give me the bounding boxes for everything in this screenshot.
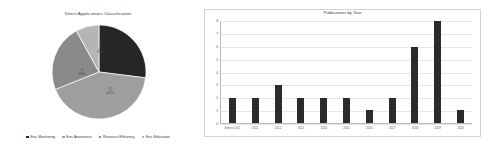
x-axis-tick-label: 2016 bbox=[358, 126, 381, 130]
bar bbox=[252, 98, 259, 124]
y-axis-tick-label: 0 bbox=[206, 122, 218, 126]
bar bbox=[275, 85, 282, 123]
y-axis-tick-label: 1 bbox=[206, 109, 218, 113]
x-axis-tick-label: 2019 bbox=[426, 126, 449, 130]
bar-column bbox=[449, 21, 472, 123]
pie-label-env-education: 2 8% bbox=[91, 46, 109, 55]
y-axis-tick-label: 5 bbox=[206, 58, 218, 62]
y-axis-tick-label: 8 bbox=[206, 19, 218, 23]
x-axis-tick-label: 2013 bbox=[289, 126, 312, 130]
figure-container: Direct Applications Classification 2 8% bbox=[0, 0, 489, 146]
bar-chart-x-tick-labels: before 201120112012201320142015201620172… bbox=[221, 126, 472, 130]
bar-column bbox=[404, 21, 427, 123]
pie-chart-legend: Env. Monitoring Env. Awareness Resource … bbox=[0, 135, 196, 139]
pie-label-resource-efficiency: 6 23% bbox=[73, 68, 91, 77]
x-axis-tick-label: 2015 bbox=[335, 126, 358, 130]
legend-item-env-awareness: Env. Awareness bbox=[62, 135, 92, 139]
legend-item-env-education: Env. Education bbox=[142, 135, 170, 139]
legend-item-resource-efficiency: Resource Efficiency bbox=[99, 135, 135, 139]
pie-svg bbox=[47, 24, 151, 120]
legend-swatch-icon bbox=[26, 136, 29, 139]
legend-swatch-icon bbox=[99, 136, 102, 139]
bar-chart-x-axis bbox=[220, 123, 472, 124]
bar-column bbox=[289, 21, 312, 123]
x-axis-tick-label: 2011 bbox=[244, 126, 267, 130]
bar-column bbox=[312, 21, 335, 123]
pie-label-percent: 8% bbox=[91, 50, 109, 54]
bar-column bbox=[426, 21, 449, 123]
x-axis-tick-label: 2020 bbox=[449, 126, 472, 130]
pie-chart-panel: Direct Applications Classification 2 8% bbox=[0, 0, 196, 146]
bar-chart-plot-area: 012345678 bbox=[220, 21, 472, 124]
pie-label-percent: 42% bbox=[100, 91, 120, 95]
legend-label: Env. Education bbox=[146, 135, 170, 139]
legend-swatch-icon bbox=[142, 136, 145, 139]
x-axis-tick-label: 2014 bbox=[312, 126, 335, 130]
bar-column bbox=[335, 21, 358, 123]
bar bbox=[366, 110, 373, 123]
bar-column bbox=[381, 21, 404, 123]
x-axis-tick-label: 2018 bbox=[404, 126, 427, 130]
bar bbox=[389, 98, 396, 124]
bar-column bbox=[221, 21, 244, 123]
y-axis-tick-label: 7 bbox=[206, 32, 218, 36]
bar bbox=[229, 98, 236, 124]
bar bbox=[320, 98, 327, 124]
pie-chart-title: Direct Applications Classification bbox=[0, 11, 196, 16]
x-axis-tick-label: 2012 bbox=[267, 126, 290, 130]
gridline bbox=[220, 124, 472, 125]
y-axis-tick-label: 4 bbox=[206, 71, 218, 75]
legend-label: Env. Monitoring bbox=[30, 135, 55, 139]
y-axis-tick-label: 2 bbox=[206, 96, 218, 100]
pie-label-env-awareness: 11 42% bbox=[100, 87, 120, 96]
bar bbox=[457, 110, 464, 123]
y-axis-tick-label: 3 bbox=[206, 84, 218, 88]
legend-item-env-monitoring: Env. Monitoring bbox=[26, 135, 55, 139]
bar-column bbox=[358, 21, 381, 123]
legend-label: Resource Efficiency bbox=[103, 135, 135, 139]
legend-label: Env. Awareness bbox=[66, 135, 91, 139]
y-axis-tick-label: 6 bbox=[206, 45, 218, 49]
bar-chart-bars bbox=[221, 21, 472, 123]
pie-label-percent: 23% bbox=[73, 72, 91, 76]
bar bbox=[343, 98, 350, 124]
bar bbox=[434, 21, 441, 123]
bar bbox=[297, 98, 304, 124]
x-axis-tick-label: before 2011 bbox=[221, 126, 244, 130]
pie-chart-graphic: 2 8% 6 23% 11 42% bbox=[47, 24, 151, 120]
bar-column bbox=[267, 21, 290, 123]
bar bbox=[411, 47, 418, 124]
legend-swatch-icon bbox=[62, 136, 65, 139]
x-axis-tick-label: 2017 bbox=[381, 126, 404, 130]
bar-column bbox=[244, 21, 267, 123]
bar-chart-title: Publications by Year bbox=[204, 10, 481, 15]
bar-chart-panel: Publications by Year 012345678 before 20… bbox=[196, 0, 489, 146]
